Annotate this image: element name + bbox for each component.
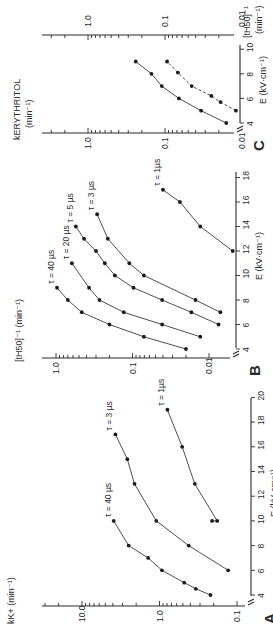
x-tick-label: 4 — [245, 121, 255, 126]
data-point — [190, 84, 194, 88]
data-point — [74, 225, 78, 229]
data-point — [215, 519, 219, 523]
data-point — [199, 109, 203, 113]
data-point — [98, 298, 102, 302]
panel-a-y-label: kK+ (min⁻¹) — [6, 577, 16, 624]
data-point — [226, 568, 230, 572]
axis-break-icon — [233, 351, 239, 357]
data-point — [95, 212, 99, 216]
series-line — [76, 227, 219, 325]
data-point — [87, 286, 91, 290]
data-point — [55, 286, 59, 290]
x-tick-label: 8 — [241, 298, 251, 303]
x-axis-label: E (kV·cm⁻¹) — [254, 232, 264, 280]
figure: 0.11.010.0468101214161820E (kV·cm⁻¹)Aτ =… — [0, 0, 273, 637]
data-point — [94, 249, 98, 253]
x-tick-label: 12 — [256, 489, 266, 499]
data-point — [224, 121, 228, 125]
series-label: τ = 40 µs — [103, 483, 113, 517]
y-tick-label: 1.0 — [83, 137, 93, 149]
series-line — [167, 62, 236, 111]
data-point — [193, 482, 197, 486]
y-tick-label: 0.01 — [237, 132, 247, 149]
x-tick-label: 14 — [256, 465, 266, 475]
series-line — [72, 263, 200, 337]
x-tick-label: 6 — [256, 568, 266, 573]
x-tick-label: 6 — [245, 96, 255, 101]
x-tick-label: 8 — [245, 72, 255, 77]
right-y-tick-label: 1.0 — [83, 15, 93, 27]
x-tick-label: 6 — [241, 323, 251, 328]
series-label: τ = 20 µs — [61, 225, 71, 259]
x-tick-label: 16 — [241, 195, 251, 205]
data-point — [189, 310, 193, 314]
data-point — [70, 261, 74, 265]
series-label: τ = 1µs — [152, 159, 162, 186]
y-tick-label: 0.1 — [160, 137, 170, 149]
data-point — [160, 568, 164, 572]
data-point — [134, 60, 138, 64]
data-point — [210, 519, 214, 523]
x-tick-label: 4 — [256, 593, 266, 598]
series-label: τ = 3 µs — [104, 401, 114, 430]
data-point — [112, 519, 116, 523]
data-point — [127, 261, 131, 265]
data-point — [106, 237, 110, 241]
data-point — [178, 200, 182, 204]
y-tick-label: 0.1 — [128, 362, 138, 374]
series-line — [57, 288, 186, 349]
data-point — [187, 544, 191, 548]
data-point — [82, 237, 86, 241]
data-point — [218, 310, 222, 314]
right-y-tick-label: 0.01 — [237, 10, 247, 27]
series-label: τ = 40 µs — [46, 250, 56, 284]
data-point — [165, 60, 169, 64]
data-point — [114, 433, 118, 437]
panel-c-left-y-unit: (min⁻¹) — [24, 100, 34, 129]
panel-c: 0.010.11.046810E (kV·cm⁻¹)C — [42, 42, 268, 151]
data-point — [132, 286, 136, 290]
y-tick-label: 10.0 — [77, 605, 87, 622]
data-point — [142, 274, 146, 278]
data-point — [108, 323, 112, 327]
x-tick-label: 10 — [245, 42, 255, 52]
panel-a: 0.11.010.0468101214161820E (kV·cm⁻¹)Aτ =… — [42, 379, 273, 624]
data-point — [217, 323, 221, 327]
y-tick-label: 0.1 — [232, 610, 242, 622]
data-point — [198, 225, 202, 229]
x-tick-label: 4 — [241, 347, 251, 352]
data-point — [219, 100, 223, 104]
panel-label: B — [246, 365, 263, 376]
right-y-tick-label: 0.1 — [160, 15, 170, 27]
series-line — [163, 190, 233, 251]
data-point — [231, 249, 235, 253]
panel-label: C — [250, 140, 267, 151]
data-point — [146, 556, 150, 560]
x-tick-label: 18 — [256, 415, 266, 425]
data-point — [209, 593, 213, 597]
data-point — [161, 188, 165, 192]
x-tick-label: 10 — [256, 514, 266, 524]
x-tick-label: 14 — [241, 220, 251, 230]
data-point — [166, 408, 170, 412]
series-line — [97, 214, 220, 312]
x-tick-label: 10 — [241, 269, 251, 279]
series-label: τ = 1µs — [156, 379, 166, 406]
data-point — [234, 109, 238, 113]
data-point — [113, 274, 117, 278]
data-point — [142, 335, 146, 339]
panel-label: A — [261, 613, 273, 624]
series-line — [116, 435, 229, 571]
axis-break-icon — [248, 599, 254, 605]
series-line — [167, 410, 217, 521]
series-line — [114, 521, 211, 595]
x-tick-label: 20 — [256, 391, 266, 401]
panel-b: 0.010.11.04681012141618E (kV·cm⁻¹)Bτ = 4… — [42, 159, 264, 376]
series-label: τ = 3 µs — [86, 181, 96, 210]
panel-c-left-y-label: kERYTHRITOL — [12, 79, 22, 140]
data-point — [122, 310, 126, 314]
data-point — [176, 71, 180, 75]
data-point — [180, 445, 184, 449]
data-point — [177, 97, 181, 101]
y-tick-label: 0.01 — [204, 357, 214, 374]
